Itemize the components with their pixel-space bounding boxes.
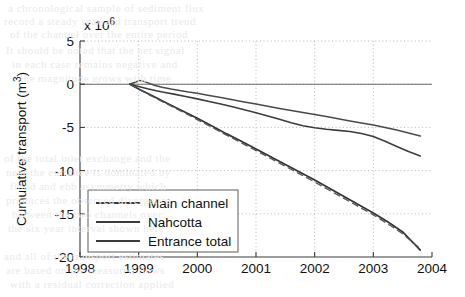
background-text-line: and all of the transport estimates bbox=[4, 250, 164, 262]
background-text-line: produces the observed divergence bbox=[6, 194, 171, 206]
x-tick-label: 2004 bbox=[417, 261, 448, 276]
figure-container: a chronological sample of sediment fluxr… bbox=[0, 0, 465, 297]
background-text-line: near the entrance is dominated by bbox=[6, 166, 171, 178]
background-text-line: It should be noted that the net signal bbox=[6, 44, 185, 56]
background-text-line: a chronological sample of sediment flux bbox=[8, 2, 204, 14]
y-tick-label: -5 bbox=[62, 120, 74, 135]
background-text-line: the magnitude grows with time bbox=[20, 72, 171, 84]
background-text-line: flood and ebb asymmetry which bbox=[10, 180, 166, 192]
x-tick-label: 2001 bbox=[241, 261, 271, 276]
background-text-line: the six year interval shown here bbox=[8, 222, 164, 234]
background-text-line: of the channel over the entire period bbox=[10, 28, 188, 40]
background-text-line: of the total inlet exchange and the bbox=[4, 152, 171, 164]
background-text-line: between the two channels over bbox=[12, 208, 162, 220]
x-tick-label: 2003 bbox=[358, 261, 388, 276]
background-text-line: record a steady seaward transport trend bbox=[4, 15, 196, 27]
x-tick-label: 2002 bbox=[300, 261, 330, 276]
x-tick-label: 2000 bbox=[182, 261, 212, 276]
background-text-line: in each case remains negative and bbox=[12, 58, 178, 70]
legend-label-entrance-total: Entrance total bbox=[148, 234, 231, 249]
series-line-nahcotta bbox=[130, 84, 420, 156]
background-text-line: are based on the measured flows bbox=[6, 264, 165, 276]
background-text-line: with a residual correction applied bbox=[10, 278, 174, 290]
